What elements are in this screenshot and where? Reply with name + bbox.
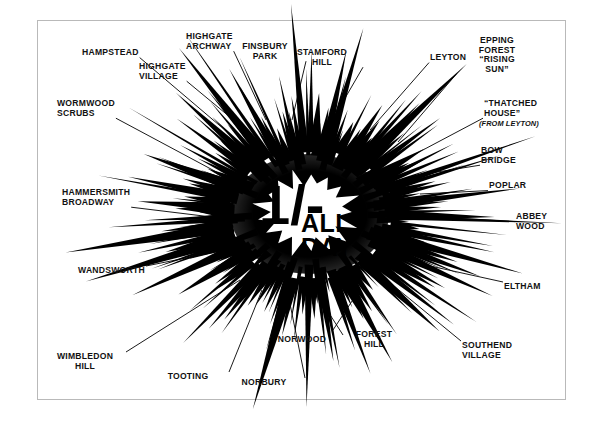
destination-label-wormwood-scrubs: WORMWOODSCRUBS xyxy=(57,99,115,118)
label-line: TOOTING xyxy=(148,372,228,382)
label-line: NORWOOD xyxy=(262,335,342,345)
destination-label-hampstead: HAMPSTEAD xyxy=(82,48,139,58)
label-line: WOOD xyxy=(516,222,547,232)
poster-canvas: 1/- ALL DAY HAMPSTEADHIGHGATEVILLAGEHIGH… xyxy=(0,0,598,426)
destination-label-forest-hill: FORESTHILL xyxy=(334,330,414,349)
destination-label-abbey-wood: ABBEYWOOD xyxy=(516,212,547,231)
destination-label-highgate-village: HIGHGATEVILLAGE xyxy=(139,62,186,81)
destination-label-norbury: NORBURY xyxy=(224,378,304,388)
destination-label-wandsworth: WANDSWORTH xyxy=(78,266,145,276)
label-line: BROADWAY xyxy=(62,198,130,208)
label-line: NORBURY xyxy=(224,378,304,388)
label-line: BRIDGE xyxy=(481,156,516,166)
destination-label-bow-bridge: BOWBRIDGE xyxy=(481,146,516,165)
destination-label-poplar: POPLAR xyxy=(489,181,526,191)
destination-label-thatched-house: “THATCHEDHOUSE” xyxy=(484,99,537,118)
label-line: VILLAGE xyxy=(462,351,512,361)
destination-label-thatched-house-sub: (FROM LEYTON) xyxy=(479,119,539,129)
label-line: SCRUBS xyxy=(57,109,115,119)
label-line: HILL xyxy=(282,58,362,68)
label-line: HILL xyxy=(334,340,414,350)
destination-label-hammersmith-broadway: HAMMERSMITHBROADWAY xyxy=(62,188,130,207)
label-line: SUN” xyxy=(457,65,537,75)
destination-label-tooting: TOOTING xyxy=(148,372,228,382)
label-line: (FROM LEYTON) xyxy=(479,119,539,129)
label-line: VILLAGE xyxy=(139,72,186,82)
destination-label-norwood: NORWOOD xyxy=(262,335,342,345)
destination-label-eltham: ELTHAM xyxy=(504,282,541,292)
label-line: HAMPSTEAD xyxy=(82,48,139,58)
destination-label-stamford-hill: STAMFORDHILL xyxy=(282,48,362,67)
destination-label-wimbledon-hill: WIMBLEDONHILL xyxy=(45,352,125,371)
label-line: ELTHAM xyxy=(504,282,541,292)
label-line: WANDSWORTH xyxy=(78,266,145,276)
destination-label-southend-village: SOUTHENDVILLAGE xyxy=(462,341,512,360)
label-line: HOUSE” xyxy=(484,109,537,119)
destination-label-epping-forest: EPPINGFOREST“RISINGSUN” xyxy=(457,36,537,74)
label-line: HILL xyxy=(45,362,125,372)
label-line: POPLAR xyxy=(489,181,526,191)
